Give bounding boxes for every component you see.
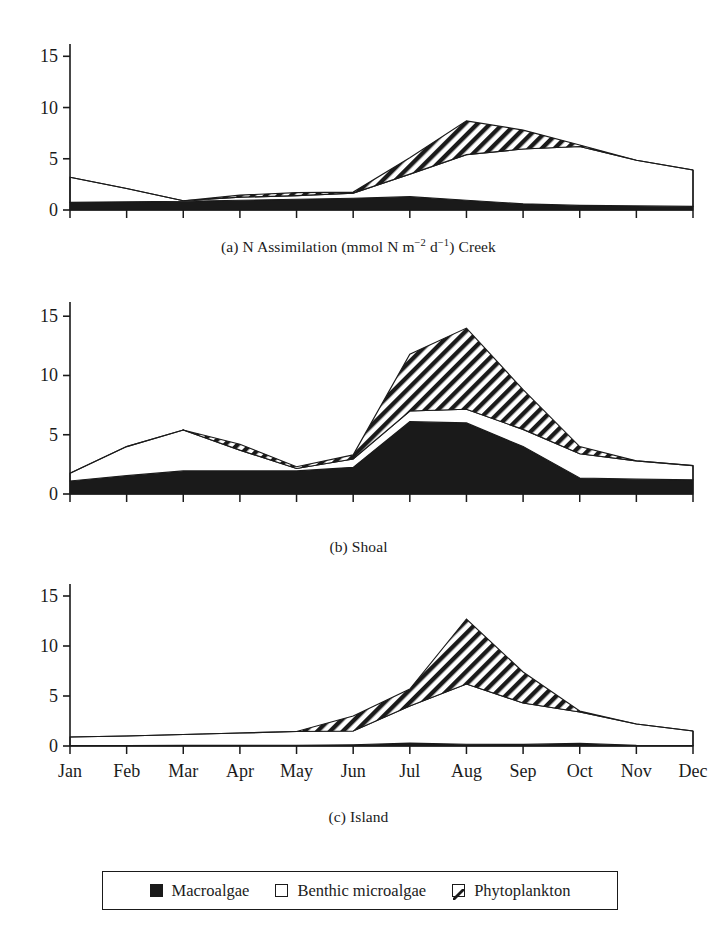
y-tick-label-0: 0 xyxy=(49,736,58,756)
legend: Macroalgae Benthic microalgae Phytoplank… xyxy=(102,871,618,910)
x-axis-label-feb: Feb xyxy=(113,761,140,781)
legend-item-macroalgae: Macroalgae xyxy=(150,881,250,901)
chart-panel-creek: 051015 xyxy=(0,0,717,272)
caption-island: (c) Island xyxy=(0,808,717,826)
caption-creek-exponent-2: −1 xyxy=(438,237,449,248)
x-axis-label-dec: Dec xyxy=(679,761,708,781)
x-axis-label-apr: Apr xyxy=(226,761,254,781)
x-axis-label-sep: Sep xyxy=(510,761,537,781)
diagonal-hatch-square-icon xyxy=(452,884,465,897)
figure-n-assimilation: 051015 (a) N Assimilation (mmol N m−2 d−… xyxy=(0,0,717,943)
caption-creek-exponent-1: −2 xyxy=(415,237,426,248)
y-tick-label-0: 0 xyxy=(49,200,58,220)
chart-svg-creek: 051015 xyxy=(0,0,717,272)
hatch-swatch-svg xyxy=(453,889,464,900)
x-axis-label-mar: Mar xyxy=(168,761,198,781)
y-tick-label-15: 15 xyxy=(40,586,58,606)
chart-panel-island: 051015JanFebMarAprMayJunJulAugSepOctNovD… xyxy=(0,562,717,847)
legend-label-benthic-microalgae: Benthic microalgae xyxy=(297,881,426,901)
caption-creek: (a) N Assimilation (mmol N m−2 d−1) Cree… xyxy=(0,238,717,256)
x-axis-label-jul: Jul xyxy=(399,761,420,781)
legend-label-macroalgae: Macroalgae xyxy=(172,881,250,901)
x-axis-label-may: May xyxy=(280,761,313,781)
caption-creek-suffix: ) Creek xyxy=(449,238,496,255)
x-axis-label-oct: Oct xyxy=(567,761,593,781)
legend-item-phytoplankton: Phytoplankton xyxy=(452,881,570,901)
y-tick-label-5: 5 xyxy=(49,686,58,706)
chart-svg-shoal: 051015 xyxy=(0,272,717,562)
x-axis-label-jan: Jan xyxy=(58,761,82,781)
legend-label-phytoplankton: Phytoplankton xyxy=(474,881,570,901)
legend-item-benthic-microalgae: Benthic microalgae xyxy=(275,881,426,901)
x-axis-label-jun: Jun xyxy=(341,761,366,781)
chart-svg-island: 051015JanFebMarAprMayJunJulAugSepOctNovD… xyxy=(0,562,717,847)
caption-creek-text: (a) N Assimilation (mmol N m xyxy=(221,238,415,255)
caption-creek-mid: d xyxy=(426,238,438,255)
y-tick-label-15: 15 xyxy=(40,46,58,66)
caption-shoal: (b) Shoal xyxy=(0,538,717,556)
y-tick-label-10: 10 xyxy=(40,636,58,656)
chart-panel-shoal: 051015 xyxy=(0,272,717,562)
y-tick-label-10: 10 xyxy=(40,365,58,385)
legend-entries: Macroalgae Benthic microalgae Phytoplank… xyxy=(150,881,571,901)
x-axis-label-aug: Aug xyxy=(451,761,482,781)
open-white-square-icon xyxy=(275,884,288,897)
y-tick-label-5: 5 xyxy=(49,425,58,445)
solid-black-square-icon xyxy=(150,884,163,897)
x-axis-label-nov: Nov xyxy=(621,761,652,781)
y-tick-label-5: 5 xyxy=(49,149,58,169)
y-tick-label-10: 10 xyxy=(40,98,58,118)
y-tick-label-0: 0 xyxy=(49,484,58,504)
y-tick-label-15: 15 xyxy=(40,306,58,326)
